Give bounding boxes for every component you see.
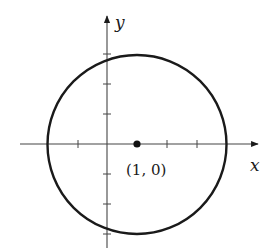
- coordinate-diagram: y x (1, 0): [0, 0, 265, 248]
- center-point: [133, 140, 140, 147]
- x-axis-label: x: [250, 155, 260, 175]
- center-point-label: (1, 0): [126, 161, 166, 179]
- y-axis-label: y: [114, 12, 125, 32]
